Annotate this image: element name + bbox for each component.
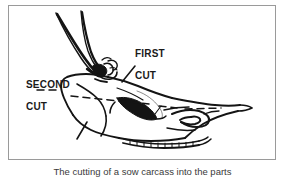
figure-root: FIRST CUT SECOND CUT The cutting of a so… [0, 0, 285, 177]
label-second-cut-line1: SECOND [26, 79, 70, 90]
label-first-cut-line1: FIRST [135, 48, 165, 59]
ear-mass [110, 91, 166, 120]
teeth-row [123, 137, 211, 148]
label-second-cut: SECOND CUT [26, 68, 70, 112]
label-first-cut-line2: CUT [135, 70, 156, 81]
muzzle-scroll [164, 107, 219, 130]
label-second-cut-line2: CUT [26, 101, 47, 112]
foreleg-shank [56, 11, 101, 73]
figure-frame: FIRST CUT SECOND CUT [8, 5, 276, 160]
label-first-cut: FIRST CUT [135, 37, 165, 81]
head-outline [61, 74, 252, 141]
figure-caption: The cutting of a sow carcass into the pa… [0, 166, 285, 177]
